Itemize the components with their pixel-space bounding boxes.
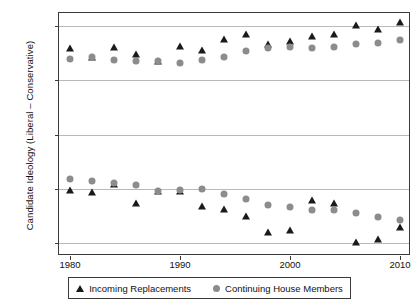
data-point — [286, 226, 294, 233]
y-axis-title: Candidate Ideology (Liberal – Conservati… — [24, 11, 35, 261]
gridline — [59, 189, 409, 190]
data-point — [221, 54, 228, 61]
data-point — [375, 40, 382, 47]
data-point — [111, 180, 118, 187]
data-point — [199, 185, 206, 192]
data-point — [155, 57, 162, 64]
data-point — [177, 59, 184, 66]
data-point — [396, 18, 404, 25]
data-point — [352, 238, 360, 245]
x-tick-label: 1990 — [157, 259, 203, 270]
data-point — [331, 207, 338, 214]
data-point — [111, 56, 118, 63]
data-point — [308, 32, 316, 39]
data-point — [67, 175, 74, 182]
data-point — [110, 43, 118, 50]
data-point — [89, 178, 96, 185]
data-point — [155, 187, 162, 194]
legend-entry[interactable]: Continuing House Members — [213, 283, 343, 294]
data-point — [198, 46, 206, 53]
data-point — [397, 217, 404, 224]
data-point — [287, 204, 294, 211]
scatter-chart-figure: Candidate Ideology (Liberal – Conservati… — [0, 0, 419, 306]
data-point — [353, 41, 360, 48]
data-point — [287, 43, 294, 50]
data-point — [374, 235, 382, 242]
data-point — [133, 182, 140, 189]
circle-marker-icon — [213, 285, 220, 292]
data-point — [308, 196, 316, 203]
data-point — [66, 44, 74, 51]
data-point — [309, 44, 316, 51]
data-point — [330, 199, 338, 206]
data-point — [66, 186, 74, 193]
plot-area: 10.50−0.5−1 1980199020002010 — [58, 12, 410, 255]
y-tick-mark — [55, 26, 59, 27]
data-point — [177, 186, 184, 193]
data-point — [243, 47, 250, 54]
gridline — [59, 135, 409, 136]
legend-label: Incoming Replacements — [89, 283, 191, 294]
data-point — [397, 37, 404, 44]
y-tick-mark — [55, 243, 59, 244]
chart-legend: Incoming ReplacementsContinuing House Me… — [68, 277, 351, 299]
x-tick-label: 2010 — [377, 259, 419, 270]
data-point — [375, 213, 382, 220]
data-point — [133, 57, 140, 64]
data-point — [330, 30, 338, 37]
data-point — [374, 26, 382, 33]
data-point — [199, 56, 206, 63]
data-point — [265, 202, 272, 209]
data-point — [353, 209, 360, 216]
y-tick-mark — [55, 135, 59, 136]
data-point — [396, 223, 404, 230]
data-point — [352, 21, 360, 28]
data-point — [331, 43, 338, 50]
data-point — [67, 55, 74, 62]
data-point — [132, 199, 140, 206]
data-point — [89, 54, 96, 61]
x-tick-label: 1980 — [47, 259, 93, 270]
data-point — [221, 191, 228, 198]
legend-label: Continuing House Members — [225, 283, 343, 294]
data-point — [265, 44, 272, 51]
data-point — [242, 212, 250, 219]
y-tick-mark — [55, 189, 59, 190]
data-point — [264, 229, 272, 236]
triangle-marker-icon — [76, 285, 84, 292]
data-point — [242, 30, 250, 37]
data-point — [220, 36, 228, 43]
y-tick-mark — [55, 80, 59, 81]
data-point — [220, 206, 228, 213]
data-point — [176, 42, 184, 49]
data-point — [88, 188, 96, 195]
data-point — [198, 203, 206, 210]
data-point — [243, 195, 250, 202]
data-point — [309, 207, 316, 214]
legend-entry[interactable]: Incoming Replacements — [76, 283, 191, 294]
x-tick-label: 2000 — [267, 259, 313, 270]
gridline — [59, 80, 409, 81]
